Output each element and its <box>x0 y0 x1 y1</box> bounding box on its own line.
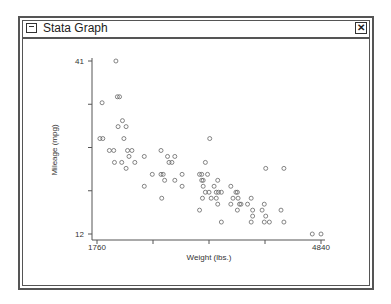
data-point <box>126 148 130 152</box>
data-point <box>209 196 213 200</box>
data-point <box>229 184 233 188</box>
data-point <box>260 208 264 212</box>
data-point <box>279 208 283 212</box>
y-tick-label-max: 41 <box>75 57 84 66</box>
data-point <box>120 160 124 164</box>
data-point <box>319 232 323 236</box>
data-point <box>198 208 202 212</box>
y-tick-label-min: 12 <box>75 230 84 239</box>
x-axis-ticks <box>97 240 321 244</box>
data-point <box>159 148 163 152</box>
x-tick-label-min: 1760 <box>88 243 106 252</box>
data-point <box>203 160 207 164</box>
data-point <box>208 137 212 141</box>
data-point <box>112 160 116 164</box>
data-point <box>160 196 164 200</box>
data-point <box>142 154 146 158</box>
data-point <box>173 154 177 158</box>
data-point <box>180 184 184 188</box>
data-point <box>167 160 171 164</box>
data-point <box>249 196 253 200</box>
data-point <box>264 166 268 170</box>
data-point <box>229 202 233 206</box>
y-axis-label: Mileage (mpg) <box>50 124 59 175</box>
data-point <box>122 137 126 141</box>
data-point <box>130 148 134 152</box>
data-point <box>112 148 116 152</box>
data-point <box>282 166 286 170</box>
data-point <box>201 184 205 188</box>
data-point <box>150 172 154 176</box>
y-axis-ticks <box>88 61 92 234</box>
data-point <box>142 184 146 188</box>
data-point <box>107 148 111 152</box>
data-point <box>267 220 271 224</box>
data-point <box>114 59 118 63</box>
data-point <box>251 208 255 212</box>
data-point <box>206 172 210 176</box>
data-point <box>173 178 177 182</box>
x-tick-label-max: 4840 <box>312 243 330 252</box>
data-point <box>124 125 128 129</box>
data-point <box>133 160 137 164</box>
data-point <box>101 137 105 141</box>
data-point <box>231 196 235 200</box>
data-point <box>200 196 204 200</box>
x-axis-label: Weight (lbs.) <box>187 253 232 262</box>
data-point <box>246 202 250 206</box>
data-point <box>216 178 220 182</box>
data-point <box>219 190 223 194</box>
data-point <box>214 196 218 200</box>
data-point <box>116 125 120 129</box>
data-point <box>216 202 220 206</box>
axes <box>92 58 325 240</box>
data-point <box>235 208 239 212</box>
data-point <box>212 184 216 188</box>
data-point <box>124 166 128 170</box>
data-point <box>282 220 286 224</box>
data-point <box>251 214 255 218</box>
data-point <box>236 196 240 200</box>
data-point <box>262 220 266 224</box>
data-point <box>100 101 104 105</box>
data-point <box>127 154 131 158</box>
data-points <box>98 59 323 236</box>
data-point <box>180 172 184 176</box>
scatter-plot: 41 12 1760 4840 Weight (lbs.) Mileage (m… <box>0 0 391 304</box>
data-point <box>120 119 124 123</box>
data-point <box>262 202 266 206</box>
data-point <box>249 220 253 224</box>
data-point <box>163 178 167 182</box>
data-point <box>166 154 170 158</box>
data-point <box>264 214 268 218</box>
data-point <box>310 232 314 236</box>
data-point <box>219 220 223 224</box>
